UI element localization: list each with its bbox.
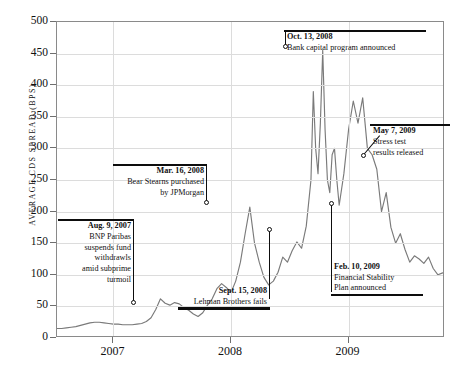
annotation-title: Mar. 16, 2008 xyxy=(113,166,207,176)
annotation-line-1: Bear Stearns purchased xyxy=(113,176,207,187)
annotation-title: Aug. 9, 2007 xyxy=(58,221,134,231)
annotation-line-1: Financial Stability xyxy=(331,272,423,283)
leader-line-bnp-paribas xyxy=(133,219,134,302)
annotation-bank-capital-program: Oct. 13, 2008 Bank capital program annou… xyxy=(284,30,426,53)
annotation-line-3: withdrawls xyxy=(58,252,134,263)
annotation-line-2: by JPMorgan xyxy=(113,187,207,198)
y-tick-label-100: 100 xyxy=(14,267,48,279)
annotation-line-1: Lehman Brothers fails xyxy=(178,296,270,307)
annotation-title: May 7, 2009 xyxy=(370,126,450,136)
annotation-title: Oct. 13, 2008 xyxy=(284,32,426,42)
x-tick-label-2008: 2008 xyxy=(200,344,260,359)
marker-bank-capital-program xyxy=(283,44,288,49)
y-tick-label-450: 450 xyxy=(14,46,48,58)
marker-stress-test xyxy=(361,153,366,158)
annotation-rule xyxy=(331,294,423,296)
annotation-line-2: suspends fund xyxy=(58,242,134,253)
annotation-title: Sept. 15, 2008 xyxy=(178,286,270,296)
annotation-stress-test: May 7, 2009 Stress test results released xyxy=(370,124,450,157)
gridline-y-350 xyxy=(57,117,443,118)
marker-lehman-brothers xyxy=(267,227,272,232)
annotation-bnp-paribas: Aug. 9, 2007 BNP Paribas suspends fund w… xyxy=(58,219,134,284)
marker-bnp-paribas xyxy=(131,300,136,305)
y-tick-0 xyxy=(50,337,56,338)
y-tick-label-200: 200 xyxy=(14,204,48,216)
annotation-line-1: Bank capital program announced xyxy=(284,42,426,53)
leader-line-bear-stearns xyxy=(206,164,207,202)
gridline-y-450 xyxy=(57,54,443,55)
marker-financial-stability-plan xyxy=(329,201,334,206)
annotation-lehman-brothers: Sept. 15, 2008 Lehman Brothers fails xyxy=(178,286,270,310)
annotation-financial-stability-plan: Feb. 10, 2009 Financial Stability Plan a… xyxy=(331,262,423,296)
annotation-bear-stearns: Mar. 16, 2008 Bear Stearns purchased by … xyxy=(113,164,207,197)
y-tick-label-400: 400 xyxy=(14,77,48,89)
annotation-line-2: Plan announced xyxy=(331,282,423,293)
chart-figure: AVERAGE CDS SPREAD (BPS) 500 450 400 350… xyxy=(0,0,459,367)
annotation-line-5: turmoil xyxy=(58,274,134,285)
y-tick-label-250: 250 xyxy=(14,172,48,184)
gridline-y-400 xyxy=(57,85,443,86)
annotation-line-1: BNP Paribas xyxy=(58,231,134,242)
x-tick-label-2007: 2007 xyxy=(82,344,142,359)
y-tick-label-300: 300 xyxy=(14,140,48,152)
annotation-title: Feb. 10, 2009 xyxy=(331,262,423,272)
y-tick-label-50: 50 xyxy=(14,298,48,310)
y-tick-label-150: 150 xyxy=(14,235,48,247)
y-tick-label-500: 500 xyxy=(14,14,48,26)
y-tick-label-350: 350 xyxy=(14,109,48,121)
y-tick-label-0: 0 xyxy=(14,330,48,342)
gridline-y-200 xyxy=(57,212,443,213)
annotation-line-4: amid subprime xyxy=(58,263,134,274)
annotation-rule xyxy=(178,307,270,309)
x-tick-label-2009: 2009 xyxy=(318,344,378,359)
leader-line-lehman-brothers xyxy=(269,229,270,299)
leader-line-financial-stability-plan xyxy=(331,203,332,292)
annotation-line-1: Stress test xyxy=(370,136,450,147)
annotation-line-2: results released xyxy=(370,147,450,158)
